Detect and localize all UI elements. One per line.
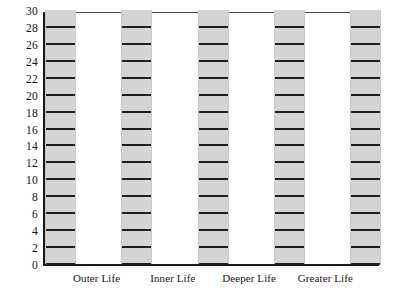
- gridline: [46, 212, 75, 214]
- bar: [198, 10, 229, 264]
- gridline: [122, 263, 151, 265]
- gridline: [46, 60, 75, 62]
- y-tick-label: 12: [2, 158, 38, 170]
- gridline: [199, 246, 228, 248]
- y-tick-label: 6: [2, 209, 38, 221]
- gridline: [122, 111, 151, 113]
- x-tick-label: Inner Life: [150, 272, 195, 285]
- gridline: [351, 212, 380, 214]
- gridline: [275, 43, 304, 45]
- gridline: [275, 161, 304, 163]
- gridline: [199, 94, 228, 96]
- y-tick-label: 4: [2, 226, 38, 238]
- gridline: [275, 77, 304, 79]
- y-tick-label: 28: [2, 23, 38, 35]
- y-tick-label: 10: [2, 175, 38, 187]
- gridline: [275, 144, 304, 146]
- gridline: [275, 94, 304, 96]
- gridline: [46, 229, 75, 231]
- y-tick-label: 22: [2, 74, 38, 86]
- gridline: [199, 263, 228, 265]
- x-tick-label: Outer Life: [73, 272, 120, 285]
- y-tick-label: 24: [2, 57, 38, 69]
- gridline: [275, 263, 304, 265]
- gridline: [275, 26, 304, 28]
- gridline: [199, 161, 228, 163]
- gridline: [199, 26, 228, 28]
- gridline: [351, 43, 380, 45]
- gridline: [46, 94, 75, 96]
- y-tick-label: 30: [2, 6, 38, 18]
- gridline: [46, 111, 75, 113]
- gridline: [199, 60, 228, 62]
- gridline: [351, 26, 380, 28]
- y-tick-label: 16: [2, 125, 38, 137]
- gridline: [351, 161, 380, 163]
- gridline: [199, 144, 228, 146]
- gridline: [275, 60, 304, 62]
- gridline: [275, 212, 304, 214]
- y-tick-label: 2: [2, 243, 38, 255]
- gridline: [122, 161, 151, 163]
- gridline: [122, 195, 151, 197]
- gridline: [351, 128, 380, 130]
- gridline: [351, 94, 380, 96]
- gridline: [351, 263, 380, 265]
- gridline: [275, 178, 304, 180]
- gridline: [199, 229, 228, 231]
- gridline: [122, 77, 151, 79]
- gridline: [351, 178, 380, 180]
- gridline: [122, 26, 151, 28]
- gridline: [46, 178, 75, 180]
- y-tick-label: 0: [2, 260, 38, 272]
- bars-layer: [45, 13, 377, 264]
- gridline: [46, 128, 75, 130]
- gridline: [46, 195, 75, 197]
- gridline: [199, 77, 228, 79]
- gridline: [122, 94, 151, 96]
- y-tick-label: 14: [2, 141, 38, 153]
- gridline: [351, 77, 380, 79]
- gridline: [351, 229, 380, 231]
- gridline: [199, 195, 228, 197]
- x-tick-label: Greater Life: [298, 272, 353, 285]
- gridline: [46, 77, 75, 79]
- bar: [121, 10, 152, 264]
- bar: [45, 10, 76, 264]
- gridline: [122, 60, 151, 62]
- gridline: [122, 246, 151, 248]
- gridline: [122, 212, 151, 214]
- gridline: [275, 195, 304, 197]
- gridline: [122, 229, 151, 231]
- gridline: [122, 144, 151, 146]
- plot-area: [43, 12, 379, 266]
- gridline: [351, 195, 380, 197]
- gridline: [46, 246, 75, 248]
- gridline: [46, 263, 75, 265]
- gridline: [46, 161, 75, 163]
- gridline: [351, 144, 380, 146]
- gridline: [122, 128, 151, 130]
- gridline: [275, 229, 304, 231]
- gridline: [46, 144, 75, 146]
- gridline: [199, 178, 228, 180]
- gridline: [199, 212, 228, 214]
- gridline: [275, 128, 304, 130]
- gridline: [46, 26, 75, 28]
- gridline: [199, 128, 228, 130]
- y-axis: 302826242220181614121086420: [0, 0, 38, 303]
- y-tick-label: 8: [2, 192, 38, 204]
- y-tick-label: 18: [2, 108, 38, 120]
- gridline: [122, 178, 151, 180]
- gridline: [351, 246, 380, 248]
- gridline: [275, 246, 304, 248]
- gridline: [351, 111, 380, 113]
- bar: [274, 10, 305, 264]
- x-axis: Outer LifeInner LifeDeeper LifeGreater L…: [43, 272, 379, 292]
- x-tick-label: Deeper Life: [222, 272, 276, 285]
- gridline: [199, 111, 228, 113]
- y-tick-label: 26: [2, 40, 38, 52]
- gridline: [275, 111, 304, 113]
- bar: [350, 10, 381, 264]
- bar-chart-figure: 302826242220181614121086420 Outer LifeIn…: [0, 0, 395, 303]
